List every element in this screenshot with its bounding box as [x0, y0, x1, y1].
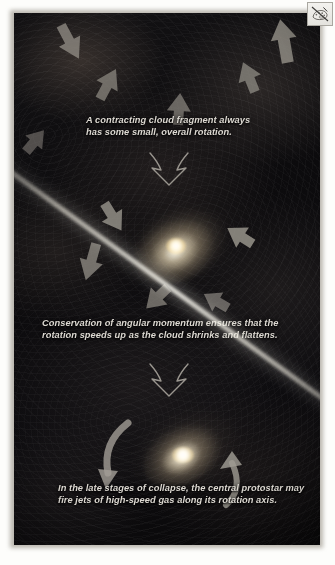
- astronomy-figure-plate: A contracting cloud fragment always has …: [14, 13, 320, 545]
- broken-image-glyph: [311, 6, 329, 22]
- plate-vignette: [14, 13, 320, 545]
- page-root: A contracting cloud fragment always has …: [0, 0, 335, 565]
- broken-image-icon[interactable]: [307, 2, 333, 26]
